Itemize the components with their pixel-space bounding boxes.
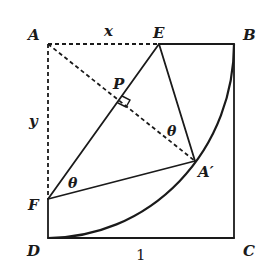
- label-theta-F: θ: [68, 175, 78, 191]
- segment-AAprime-dashed: [48, 44, 195, 161]
- label-C: C: [243, 242, 255, 260]
- label-D: D: [26, 242, 40, 260]
- segment-EAprime: [159, 44, 195, 161]
- arc-DB: [48, 44, 234, 238]
- label-A: A: [26, 26, 40, 44]
- label-x: x: [103, 22, 114, 40]
- label-y: y: [28, 112, 39, 130]
- label-1: 1: [136, 246, 146, 264]
- geometry-diagram: A B C D E F A′ P x y 1 θ θ: [0, 0, 265, 277]
- label-A-prime: A′: [196, 163, 214, 181]
- label-B: B: [242, 26, 256, 44]
- label-P: P: [112, 75, 125, 93]
- label-theta-Aprime: θ: [167, 123, 177, 139]
- label-F: F: [27, 196, 40, 214]
- label-E: E: [152, 24, 165, 42]
- segment-EF: [48, 44, 159, 199]
